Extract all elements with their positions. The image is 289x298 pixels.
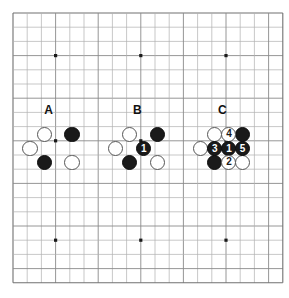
- stone-black[interactable]: [64, 127, 79, 142]
- stone-black[interactable]: [235, 127, 250, 142]
- stone-black-3[interactable]: 3: [207, 141, 222, 156]
- stone-move-number: 1: [226, 143, 231, 153]
- stone-white-2[interactable]: 2: [221, 155, 236, 170]
- stone-white[interactable]: [150, 155, 165, 170]
- stone-white[interactable]: [37, 127, 52, 142]
- stone-black-5[interactable]: 5: [235, 141, 250, 156]
- stone-black[interactable]: [37, 155, 52, 170]
- stone-white[interactable]: [22, 141, 37, 156]
- stone-move-number: 2: [226, 157, 231, 167]
- stone-move-number: 3: [212, 143, 217, 153]
- group-label-C: C: [218, 103, 227, 117]
- stone-black-1[interactable]: 1: [136, 141, 151, 156]
- stone-black[interactable]: [207, 155, 222, 170]
- stone-white[interactable]: [193, 141, 208, 156]
- stone-white[interactable]: [122, 127, 137, 142]
- stone-move-number: 5: [240, 143, 245, 153]
- stone-black[interactable]: [122, 155, 137, 170]
- stone-white[interactable]: [108, 141, 123, 156]
- stone-black[interactable]: [150, 127, 165, 142]
- group-label-B: B: [133, 103, 142, 117]
- stone-white[interactable]: [207, 127, 222, 142]
- stone-white[interactable]: [64, 155, 79, 170]
- stone-white-4[interactable]: 4: [221, 127, 236, 142]
- group-label-A: A: [44, 103, 53, 117]
- go-diagram-root: 143152ABC: [0, 0, 289, 298]
- stone-white[interactable]: [235, 155, 250, 170]
- stone-move-number: 1: [141, 143, 146, 153]
- stones-and-labels-layer: 143152ABC: [0, 0, 289, 298]
- stone-move-number: 4: [226, 129, 231, 139]
